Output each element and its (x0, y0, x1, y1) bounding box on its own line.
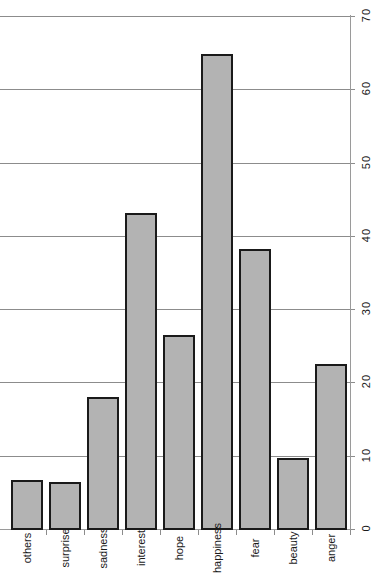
bar-sadness (87, 397, 119, 530)
category-label-happiness: happiness (211, 518, 223, 577)
gridline (0, 89, 350, 90)
category-label-fear: fear (249, 518, 261, 577)
gridline (0, 163, 350, 164)
value-tick-label-10: 10 (360, 435, 372, 475)
category-axis-tick (84, 530, 85, 535)
category-axis-tick (160, 530, 161, 535)
bar-hope (163, 335, 195, 530)
value-tick-label-50: 50 (360, 142, 372, 182)
value-axis-line (350, 15, 351, 530)
gridline (0, 309, 350, 310)
gridline (0, 236, 350, 237)
category-label-sadness: sadness (97, 518, 109, 577)
category-label-anger: anger (325, 518, 337, 577)
bar-interest (125, 213, 157, 530)
value-tick-label-20: 20 (360, 361, 372, 401)
bar-happiness (201, 54, 233, 530)
category-label-beauty: beauty (287, 518, 299, 577)
category-axis-tick (122, 530, 123, 535)
category-label-interest: interest (135, 518, 147, 577)
gridline (0, 16, 350, 17)
category-label-hope: hope (173, 518, 185, 577)
value-tick-label-30: 30 (360, 288, 372, 328)
category-axis-tick (274, 530, 275, 535)
value-tick-label-40: 40 (360, 215, 372, 255)
bar-anger (315, 364, 347, 530)
category-axis-tick (236, 530, 237, 535)
bar-fear (239, 249, 271, 530)
category-axis-tick (350, 530, 351, 535)
value-tick-label-70: 70 (360, 0, 372, 35)
category-axis-tick (198, 530, 199, 535)
category-axis-tick (312, 530, 313, 535)
category-axis-tick (46, 530, 47, 535)
category-label-others: others (21, 518, 33, 577)
category-label-surprise: surprise (59, 518, 71, 577)
value-tick-label-60: 60 (360, 68, 372, 108)
value-tick-label-0: 0 (360, 508, 372, 548)
